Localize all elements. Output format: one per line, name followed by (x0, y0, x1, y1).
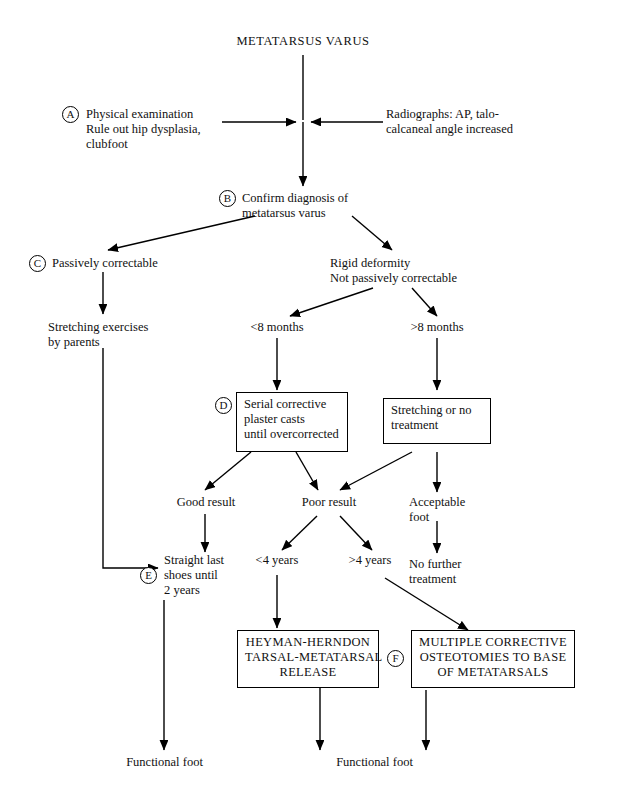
edge-poor-to-over4 (340, 516, 372, 550)
node-over-8-months: >8 months (397, 320, 477, 335)
node-good-result: Good result (160, 495, 252, 510)
node-stretching-by-parents: Stretching exercises by parents (48, 320, 148, 350)
step-marker-a: A (62, 106, 79, 123)
node-functional-foot-left: Functional foot (112, 755, 217, 770)
step-marker-e: E (140, 567, 157, 584)
edge-rigid-to-under8 (290, 288, 373, 316)
edge-confirm-to-passive (108, 216, 255, 250)
edge-rigid-to-over8 (412, 288, 437, 316)
edge-casts-to-poor (296, 452, 318, 490)
node-passively-correctable: Passively correctable (52, 256, 158, 271)
node-under-8-months: <8 months (237, 320, 317, 335)
edge-casts-to-good (205, 452, 251, 490)
diagram-title: METATARSUS VARUS (203, 34, 403, 49)
node-radiographs: Radiographs: AP, talo- calcaneal angle i… (386, 107, 513, 137)
node-physical-examination: Physical examination Rule out hip dyspla… (86, 107, 201, 152)
step-marker-c: C (29, 255, 46, 272)
node-poor-result: Poor result (283, 495, 375, 510)
node-over-4-years: >4 years (330, 553, 410, 568)
node-acceptable-foot: Acceptable foot (409, 495, 465, 525)
node-no-further-treatment: No further treatment (409, 557, 461, 587)
step-marker-d: D (215, 397, 232, 414)
node-straight-last-shoes: Straight last shoes until 2 years (164, 553, 224, 598)
edge-poor-to-under4 (282, 516, 317, 550)
node-rigid-deformity: Rigid deformity Not passively correctabl… (330, 256, 457, 286)
step-marker-f: F (387, 650, 404, 667)
box-heyman-herndon-release: HEYMAN-HERNDON TARSAL-METATARSAL RELEASE (237, 630, 379, 688)
box-serial-corrective-casts: Serial corrective plaster casts until ov… (236, 392, 348, 452)
flowchart-page: METATARSUS VARUS A Physical examination … (0, 0, 625, 793)
edge-stretchbox-to-poor (340, 452, 412, 490)
node-functional-foot-right: Functional foot (322, 755, 427, 770)
edge-stretching-to-shoes (103, 348, 158, 568)
step-marker-b: B (219, 190, 236, 207)
edge-confirm-to-rigid (352, 216, 392, 250)
box-stretching-or-no-treatment: Stretching or no treatment (383, 398, 491, 444)
box-multiple-osteotomies: MULTIPLE CORRECTIVE OSTEOTOMIES TO BASE … (411, 630, 575, 688)
node-confirm-diagnosis: Confirm diagnosis of metatarsus varus (242, 191, 348, 221)
node-under-4-years: <4 years (237, 553, 317, 568)
